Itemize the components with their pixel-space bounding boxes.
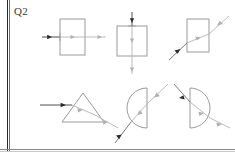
incident-arrowhead-icon (130, 18, 134, 23)
exit-ray (210, 118, 230, 128)
semicircle-block (190, 88, 210, 128)
ray-diagram-figure-group: Horizontal ray entering a vertical recta… (0, 0, 235, 152)
figure-rectangle-normal-incidence: Horizontal ray entering a vertical recta… (40, 14, 118, 62)
internal-arrowhead-icon (71, 35, 76, 39)
worksheet-page: Q2 Horizontal ray entering a vertical re… (0, 0, 235, 152)
incident-arrowhead-icon (174, 49, 180, 54)
figure-semicircle-flat-left: Ray entering the flat face of a semicirc… (172, 80, 234, 148)
internal-ray (72, 105, 95, 115)
internal-arrowhead-icon (130, 38, 134, 43)
internal-arrowhead-icon (137, 110, 143, 115)
incident-arrowhead-icon (179, 95, 185, 99)
exit-arrowhead-icon (130, 67, 134, 72)
figure-2-canvas (108, 10, 162, 76)
triangle-prism (62, 93, 104, 122)
figure-semicircle-flat-right: Ray entering the curved surface of a sem… (112, 80, 174, 148)
exit-arrowhead-icon (102, 121, 108, 125)
incident-ray (174, 84, 190, 102)
figure-rectangle-oblique-incidence: Oblique ray crossing a vertical rectangu… (165, 12, 235, 74)
figure-3-canvas (165, 12, 235, 74)
figure-square-vertical-normal-incidence: Vertical ray entering the top face of a … (108, 10, 162, 76)
exit-arrowhead-icon (98, 35, 103, 39)
exit-arrowhead-icon (217, 21, 223, 26)
figure-6-canvas (172, 80, 234, 148)
incident-arrowhead-icon (116, 135, 122, 140)
internal-arrowhead-icon (195, 36, 201, 40)
incident-arrowhead-icon (61, 103, 66, 107)
figure-1-canvas (40, 14, 118, 62)
exit-arrowhead-icon (154, 93, 160, 98)
figure-5-canvas (112, 80, 174, 148)
incident-ray (115, 122, 131, 143)
incident-arrowhead-icon (47, 35, 52, 39)
